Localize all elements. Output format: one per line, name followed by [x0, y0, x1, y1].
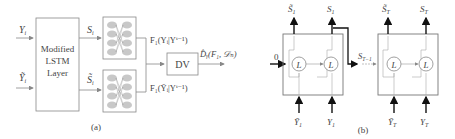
state-stilde-label: S̃i [87, 73, 94, 86]
lstm-box-line1: Modified [41, 44, 75, 54]
state-s-label: Si [87, 24, 94, 36]
svg-text:L: L [390, 60, 396, 70]
caption-b: (b) [358, 125, 369, 135]
in-y1-label: Y1 [327, 117, 335, 128]
dv-output-label: D̂ᵧ(F₁, 𝒟ₙ) [199, 49, 237, 59]
nn-output-top-label: F₁(Yᵢ|Yⁱ⁻¹) [150, 35, 188, 45]
initial-state-label: 0 [274, 52, 279, 62]
neural-net-bottom-icon [103, 70, 136, 112]
panel-a: Yi Ỹi Modified LSTM Layer Si S̃i F₁(Yᵢ|Y… [16, 17, 237, 132]
input-ytilde-label: Ỹi [19, 72, 27, 84]
input-y-label: Yi [19, 24, 27, 36]
out-s1-label: S1 [327, 4, 335, 15]
in-ytilde1-label: Ỹ1 [294, 117, 302, 128]
nn-output-bottom-label: F₁(Ỹᵢ|Yⁱ⁻¹) [150, 83, 188, 93]
svg-text:L: L [295, 60, 301, 70]
panel-b: 0 L L S̃1 S1 Ỹ1 Y1 ST−1 [270, 4, 438, 135]
neural-net-top-icon [103, 17, 136, 59]
figure: Yi Ỹi Modified LSTM Layer Si S̃i F₁(Yᵢ|Y… [0, 0, 455, 139]
in-yT-label: YT [420, 117, 429, 128]
lstm-box-line2: LSTM [45, 56, 69, 66]
out-stildeT-label: S̃T [382, 4, 391, 15]
nn-merge-line [136, 38, 146, 92]
svg-text:L: L [422, 60, 428, 70]
state-pass-arrow [333, 28, 357, 64]
svg-text:L: L [327, 60, 333, 70]
dv-label: DV [175, 59, 190, 70]
out-sT-label: ST [420, 4, 429, 15]
out-stilde1-label: S̃1 [288, 4, 296, 15]
state-t-minus-1-label: ST−1 [358, 51, 372, 62]
caption-a: (a) [91, 122, 101, 132]
lstm-box-line3: Layer [47, 68, 68, 78]
in-ytildeT-label: ỸT [388, 117, 397, 128]
